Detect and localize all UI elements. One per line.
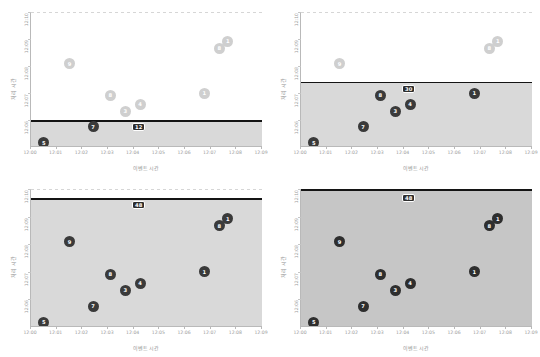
plot-top-boundary-top-right	[301, 12, 532, 13]
data-point-marker: 9	[64, 58, 75, 69]
x-axis-top-left: 12:0012:0112:0212:0312:0412:0512:0612:07…	[30, 146, 262, 147]
x-tick	[454, 146, 455, 149]
x-tick-label: 12:00	[23, 330, 36, 335]
y-tick-label: 12:08	[294, 245, 299, 258]
x-tick-label: 12:03	[100, 150, 113, 155]
x-tick-label: 12:05	[152, 150, 165, 155]
data-point-marker: 7	[358, 121, 369, 132]
y-tick-label: 12:09	[294, 40, 299, 53]
x-tick-label: 12:02	[345, 330, 358, 335]
data-point-marker: 4	[135, 99, 146, 110]
x-tick	[133, 146, 134, 149]
watermark-shaded-region-top-right	[301, 82, 532, 147]
x-tick	[158, 146, 159, 149]
x-tick	[531, 146, 532, 149]
x-tick-label: 12:07	[203, 330, 216, 335]
x-tick-label: 12:03	[370, 150, 383, 155]
x-tick	[300, 326, 301, 329]
x-tick-label: 12:09	[524, 330, 537, 335]
x-tick	[428, 326, 429, 329]
watermark-threshold-line-bottom-right	[301, 189, 532, 191]
x-tick-label: 12:06	[447, 330, 460, 335]
x-tick-label: 12:01	[319, 330, 332, 335]
x-tick	[505, 146, 506, 149]
y-tick-label: 12:07	[294, 273, 299, 286]
x-tick	[377, 146, 378, 149]
watermark-shaded-region-bottom-right	[301, 189, 532, 327]
x-tick	[351, 326, 352, 329]
y-axis-title-top-left: 처리 시간	[9, 78, 16, 100]
x-tick-label: 12:02	[75, 330, 88, 335]
x-tick-label: 12:05	[422, 150, 435, 155]
y-tick-label: 12:07	[24, 273, 29, 286]
x-tick-label: 12:02	[345, 150, 358, 155]
x-tick-label: 12:08	[499, 330, 512, 335]
x-tick-label: 12:06	[177, 330, 190, 335]
data-point-marker: 1	[199, 266, 210, 277]
x-tick	[184, 326, 185, 329]
x-tick-label: 12:09	[254, 330, 267, 335]
plot-top-boundary-top-left	[31, 12, 262, 13]
plot-area-top-right: 98157348130 12:1012:0912:0812:0712:06	[300, 12, 532, 147]
x-tick-label: 12:00	[293, 150, 306, 155]
x-tick-label: 12:08	[229, 150, 242, 155]
watermark-shaded-region-top-left	[31, 120, 262, 147]
data-point-marker: 8	[375, 90, 386, 101]
x-tick-label: 12:09	[524, 150, 537, 155]
x-tick	[326, 326, 327, 329]
panel-top-right: 98157348130 12:1012:0912:0812:0712:06 12…	[270, 0, 540, 177]
y-axis-title-bottom-right: 처리 시간	[279, 256, 286, 278]
y-tick-label: 12:09	[294, 218, 299, 231]
watermark-badge: 12	[132, 123, 145, 131]
x-tick-label: 12:06	[447, 150, 460, 155]
plot-top-boundary-bottom-left	[31, 189, 262, 190]
x-tick-label: 12:01	[49, 330, 62, 335]
x-tick	[235, 146, 236, 149]
x-tick	[107, 326, 108, 329]
plot-area-top-left: 98341815712 12:1012:0912:0812:0712:06	[30, 12, 262, 147]
x-tick-label: 12:05	[152, 330, 165, 335]
x-tick	[235, 326, 236, 329]
x-tick-label: 12:07	[203, 150, 216, 155]
x-tick-label: 12:05	[422, 330, 435, 335]
data-point-marker: 7	[88, 301, 99, 312]
panel-bottom-right: 98341815748 12:1012:0912:0812:0712:06 12…	[270, 177, 540, 357]
y-tick-label: 12:06	[294, 300, 299, 313]
x-tick	[210, 146, 211, 149]
data-point-marker: 3	[390, 285, 401, 296]
x-tick-label: 12:02	[75, 150, 88, 155]
x-tick	[133, 326, 134, 329]
x-tick-label: 12:00	[293, 330, 306, 335]
watermark-threshold-line-top-left	[31, 120, 262, 122]
x-tick	[30, 326, 31, 329]
x-tick	[326, 146, 327, 149]
x-tick-label: 12:01	[49, 150, 62, 155]
y-tick-label: 12:07	[294, 94, 299, 107]
x-tick-label: 12:03	[100, 330, 113, 335]
panel-bottom-left: 98341815748 12:1012:0912:0812:0712:06 12…	[0, 177, 270, 357]
x-tick	[403, 146, 404, 149]
x-tick	[377, 326, 378, 329]
x-axis-title-top-left: 이벤트 시간	[30, 164, 262, 171]
data-point-marker: 3	[120, 285, 131, 296]
data-point-marker: 4	[405, 278, 416, 289]
plot-inner-top-left: 98341815712	[31, 12, 262, 147]
x-axis-bottom-left: 12:0012:0112:0212:0312:0412:0512:0612:07…	[30, 326, 262, 327]
y-tick-label: 12:09	[24, 40, 29, 53]
x-tick	[403, 326, 404, 329]
x-tick-label: 12:04	[126, 150, 139, 155]
data-point-marker: 4	[405, 99, 416, 110]
x-tick	[428, 146, 429, 149]
x-tick	[158, 326, 159, 329]
x-axis-bottom-right: 12:0012:0112:0212:0312:0412:0512:0612:07…	[300, 326, 532, 327]
x-tick	[261, 326, 262, 329]
data-point-marker: 9	[334, 58, 345, 69]
data-point-marker: 1	[199, 88, 210, 99]
x-axis-title-top-right: 이벤트 시간	[300, 164, 532, 171]
x-axis-top-right: 12:0012:0112:0212:0312:0412:0512:0612:07…	[300, 146, 532, 147]
figure-grid: 98341815712 12:1012:0912:0812:0712:06 12…	[0, 0, 540, 357]
panel-top-left: 98341815712 12:1012:0912:0812:0712:06 12…	[0, 0, 270, 177]
watermark-badge: 30	[402, 85, 415, 93]
x-tick	[56, 326, 57, 329]
y-tick-label: 12:10	[24, 190, 29, 203]
